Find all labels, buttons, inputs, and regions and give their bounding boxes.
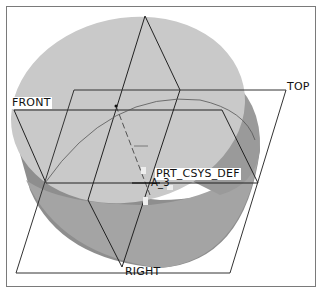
datum-label-front[interactable]: FRONT <box>11 97 52 109</box>
axis-label[interactable]: A_3 <box>150 177 171 189</box>
datum-label-top[interactable]: TOP <box>286 81 311 93</box>
cylinder-model[interactable] <box>0 0 325 289</box>
datum-label-right[interactable]: RIGHT <box>124 266 161 278</box>
